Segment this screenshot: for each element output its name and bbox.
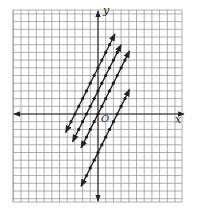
point [123, 97, 126, 100]
point [108, 43, 111, 46]
origin-label: O [101, 113, 109, 124]
point [104, 51, 107, 54]
point [85, 112, 88, 115]
point [104, 74, 107, 77]
point [89, 128, 92, 131]
line-2 [73, 45, 122, 142]
point [93, 120, 96, 123]
point [100, 105, 103, 108]
point [96, 151, 99, 154]
point [100, 143, 103, 146]
point [120, 105, 123, 108]
point [77, 105, 80, 108]
point [108, 66, 111, 69]
point [104, 136, 107, 139]
point [81, 97, 84, 100]
point [116, 112, 119, 115]
point [89, 82, 92, 85]
point [93, 159, 96, 162]
point [81, 120, 84, 123]
point [108, 89, 111, 92]
point [104, 97, 107, 100]
point [116, 51, 119, 54]
point [85, 174, 88, 177]
point [96, 112, 99, 115]
y-axis-label: y [103, 4, 109, 17]
point [69, 120, 72, 123]
point [123, 59, 126, 62]
point [112, 82, 115, 85]
point [93, 74, 96, 77]
point [85, 136, 88, 139]
point [100, 82, 103, 85]
x-axis-label: x [175, 113, 181, 126]
point [116, 74, 119, 77]
point [108, 128, 111, 131]
point [96, 89, 99, 92]
point [77, 128, 80, 131]
point [96, 66, 99, 69]
coordinate-plane [0, 0, 198, 212]
point [112, 120, 115, 123]
point [112, 59, 115, 62]
point [73, 112, 76, 115]
point [85, 89, 88, 92]
point [93, 97, 96, 100]
point [120, 66, 123, 69]
point [89, 105, 92, 108]
point [89, 166, 92, 169]
point [100, 59, 103, 62]
